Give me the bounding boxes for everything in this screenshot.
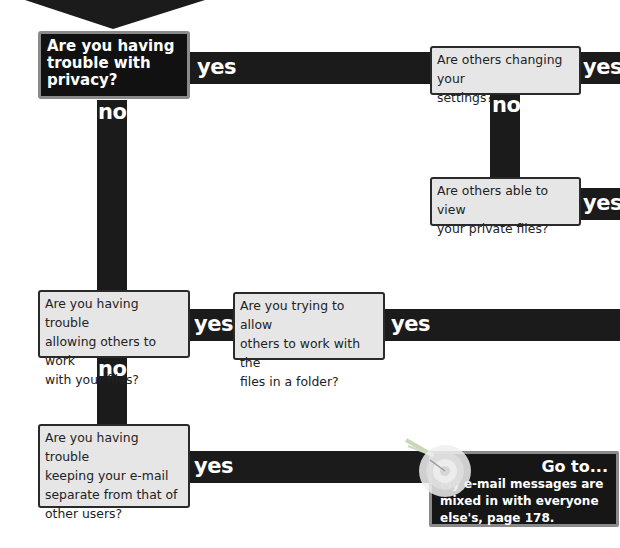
email-yes-label: yes bbox=[194, 456, 233, 477]
question-folder: Are you trying to allow others to work w… bbox=[233, 292, 385, 360]
goto-line: else's, page 178. bbox=[440, 510, 603, 527]
question-line: Are you trying to allow bbox=[240, 296, 378, 334]
question-line: Are you having trouble bbox=[45, 428, 183, 466]
question-settings: Are others changing your settings? bbox=[430, 46, 581, 95]
connector-start-no bbox=[97, 100, 127, 300]
question-line: Are others able to view bbox=[437, 181, 574, 219]
question-work-files: Are you having trouble allowing others t… bbox=[38, 290, 190, 358]
question-line: other users? bbox=[45, 504, 183, 523]
goto-title: Go to... bbox=[541, 457, 608, 476]
question-line: allowing others to work bbox=[45, 332, 183, 370]
question-line: with your files? bbox=[45, 370, 183, 389]
question-line: privacy? bbox=[47, 72, 181, 89]
question-line: others to work with the bbox=[240, 334, 378, 372]
question-line: files in a folder? bbox=[240, 372, 378, 391]
workfiles-yes-label: yes bbox=[194, 314, 233, 335]
question-line: trouble with bbox=[47, 55, 181, 72]
question-line: separate from that of bbox=[45, 485, 183, 504]
question-line: Are you having trouble bbox=[45, 294, 183, 332]
question-private-files: Are others able to view your private fil… bbox=[430, 177, 581, 226]
question-line: settings? bbox=[437, 88, 574, 107]
start-yes-label: yes bbox=[197, 57, 236, 78]
question-privacy: Are you having trouble with privacy? bbox=[38, 31, 190, 99]
settings-yes-label: yes bbox=[583, 57, 620, 78]
question-line: Are you having bbox=[47, 38, 181, 55]
folder-yes-label: yes bbox=[391, 314, 430, 335]
question-line: your private files? bbox=[437, 219, 574, 238]
question-line: keeping your e-mail bbox=[45, 466, 183, 485]
privatefiles-yes-label: yes bbox=[583, 193, 620, 214]
question-email: Are you having trouble keeping your e-ma… bbox=[38, 424, 190, 508]
question-line: Are others changing your bbox=[437, 50, 574, 88]
start-no-label: no bbox=[98, 102, 126, 123]
target-icon bbox=[400, 436, 480, 506]
